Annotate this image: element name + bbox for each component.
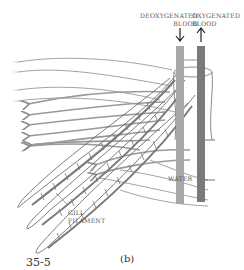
oxygenated-line1: OXYGENATED	[192, 12, 240, 20]
gill-diagram	[0, 0, 244, 270]
deoxygenated-blood-label: DEOXYGENATED BLOOD	[140, 12, 198, 27]
water-text: WATER	[168, 175, 192, 182]
oxygenated-vessel	[197, 46, 205, 202]
up-arrow-icon	[197, 28, 205, 42]
gill-filament-label: GILL FILAMENT	[68, 209, 105, 224]
figure-number: 35-5	[26, 256, 51, 269]
gill-line1: GILL	[68, 209, 105, 217]
deoxygenated-line1: DEOXYGENATED	[140, 12, 198, 20]
oxygenated-blood-label: OXYGENATED BLOOD	[192, 12, 240, 27]
deoxygenated-line2: BLOOD	[140, 20, 198, 28]
water-arrows	[28, 92, 190, 175]
panel-label: (b)	[120, 253, 134, 264]
oxygenated-line2: BLOOD	[192, 20, 240, 28]
gill-line2: FILAMENT	[68, 217, 105, 225]
water-label: WATER	[168, 175, 192, 183]
down-arrow-icon	[176, 28, 184, 41]
